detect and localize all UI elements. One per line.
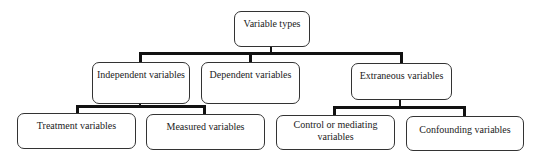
node-variable-types: Variable types (234, 11, 310, 47)
connector-level1-bar (139, 52, 403, 55)
node-confounding-variables: Confounding variables (406, 116, 524, 151)
node-label: Treatment variables (37, 120, 116, 131)
node-independent-variables: Independent variables (92, 62, 190, 104)
node-extraneous-variables: Extraneous variables (351, 63, 452, 100)
node-label: Extraneous variables (360, 70, 444, 81)
node-label: Confounding variables (419, 124, 510, 135)
connector-confounding-drop (463, 106, 466, 116)
connector-independent-bar (76, 105, 206, 108)
node-label: Dependent variables (210, 69, 292, 80)
node-control-or-mediating-variables: Control or mediating variables (276, 115, 395, 150)
connector-measured-drop (203, 105, 206, 114)
connector-extraneous-drop (400, 52, 403, 63)
node-label: Independent variables (97, 69, 185, 80)
node-dependent-variables: Dependent variables (201, 62, 300, 104)
node-measured-variables: Measured variables (146, 114, 265, 150)
node-label: Measured variables (166, 121, 244, 132)
node-label: Control or mediating variables (294, 119, 378, 142)
node-treatment-variables: Treatment variables (17, 113, 136, 149)
connector-extraneous-bar (333, 106, 466, 109)
node-label: Variable types (244, 18, 301, 29)
